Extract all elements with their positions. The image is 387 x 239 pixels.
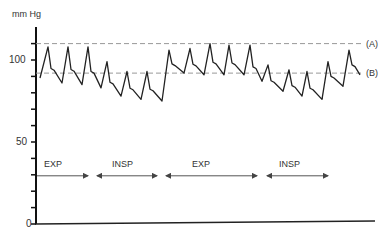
phase-label-exp-2: EXP — [192, 159, 210, 169]
reference-line-b-label: (B) — [366, 68, 378, 78]
y-tick-label-50: 50 — [16, 136, 28, 147]
y-axis-unit-label: mm Hg — [12, 9, 41, 19]
pressure-chart: mm Hg 100 50 0 (A) (B) EXP INSP EXP INSP — [0, 0, 387, 239]
phase-label-exp-1: EXP — [44, 159, 62, 169]
x-axis — [35, 221, 375, 224]
y-tick-label-0: 0 — [26, 218, 32, 229]
y-tick-label-100: 100 — [9, 54, 26, 65]
reference-line-a-label: (A) — [366, 39, 378, 49]
pressure-waveform — [40, 44, 360, 101]
phase-label-insp-2: INSP — [279, 159, 300, 169]
phase-label-insp-1: INSP — [112, 159, 133, 169]
